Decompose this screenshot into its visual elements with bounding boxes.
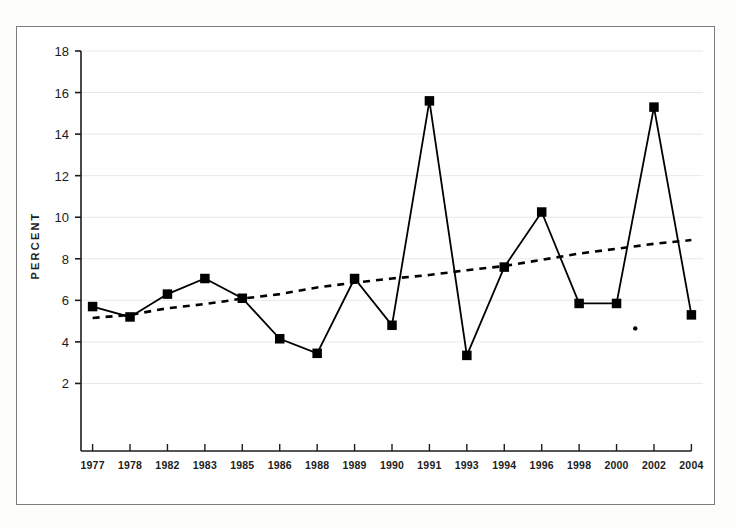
y-axis-ticks: 24681012141618 xyxy=(55,44,81,391)
data-point-marker xyxy=(462,351,472,361)
y-tick-label: 8 xyxy=(62,252,69,267)
y-tick-label: 2 xyxy=(62,376,69,391)
x-tick-label: 1998 xyxy=(567,459,591,471)
data-point-marker xyxy=(649,102,659,112)
data-point-marker xyxy=(500,262,510,272)
series-line-trend xyxy=(93,240,692,318)
x-tick-label: 1986 xyxy=(268,459,292,471)
y-axis-title: PERCENT xyxy=(29,211,41,279)
data-point-marker xyxy=(425,96,435,106)
y-gridlines xyxy=(81,51,703,383)
series-markers-percent xyxy=(88,96,696,360)
y-tick-label: 4 xyxy=(62,335,69,350)
x-tick-label: 2004 xyxy=(679,459,703,471)
x-tick-label: 1993 xyxy=(455,459,479,471)
figure-canvas: 2468101214161819771978198219831985198619… xyxy=(0,0,735,529)
data-point-marker xyxy=(387,321,397,331)
chart-frame: 2468101214161819771978198219831985198619… xyxy=(16,26,715,505)
x-tick-label: 1982 xyxy=(155,459,179,471)
y-tick-label: 16 xyxy=(55,86,69,101)
data-point-marker xyxy=(312,349,322,359)
x-tick-label: 1978 xyxy=(118,459,142,471)
data-point-marker xyxy=(537,207,547,217)
y-tick-label: 18 xyxy=(55,44,69,59)
series-line-percent xyxy=(93,101,692,356)
y-tick-label: 14 xyxy=(55,127,69,142)
data-point-marker xyxy=(163,289,173,299)
x-tick-label: 2002 xyxy=(642,459,666,471)
x-tick-label: 1988 xyxy=(305,459,329,471)
data-point-marker xyxy=(200,274,210,284)
x-tick-label: 1977 xyxy=(81,459,105,471)
x-tick-label: 1991 xyxy=(417,459,441,471)
data-point-marker xyxy=(574,299,584,309)
x-axis-ticks: 1977197819821983198519861988198919901991… xyxy=(81,444,704,471)
x-tick-label: 1983 xyxy=(193,459,217,471)
x-tick-label: 1989 xyxy=(342,459,366,471)
x-tick-label: 1985 xyxy=(230,459,254,471)
x-tick-label: 1994 xyxy=(492,459,516,471)
y-tick-label: 6 xyxy=(62,293,69,308)
data-point-marker xyxy=(275,334,285,344)
x-tick-label: 2000 xyxy=(604,459,628,471)
y-tick-label: 10 xyxy=(55,210,69,225)
x-tick-label: 1996 xyxy=(530,459,554,471)
data-point-marker xyxy=(88,302,98,312)
line-chart: 2468101214161819771978198219831985198619… xyxy=(17,27,713,503)
annotation-stray-dot xyxy=(633,326,637,330)
data-point-marker xyxy=(612,299,622,309)
y-tick-label: 12 xyxy=(55,169,69,184)
x-tick-label: 1990 xyxy=(380,459,404,471)
data-point-marker xyxy=(687,310,697,320)
